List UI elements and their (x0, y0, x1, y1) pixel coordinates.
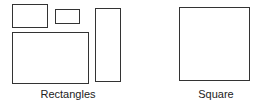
square-shape (179, 7, 250, 81)
rectangle-tall-right (95, 8, 121, 82)
square-label: Square (186, 88, 246, 100)
rectangle-small-top-middle (55, 9, 80, 24)
rectangle-small-top-left (12, 4, 48, 28)
rectangle-large-bottom (12, 32, 89, 84)
rectangles-label: Rectangles (38, 88, 98, 100)
